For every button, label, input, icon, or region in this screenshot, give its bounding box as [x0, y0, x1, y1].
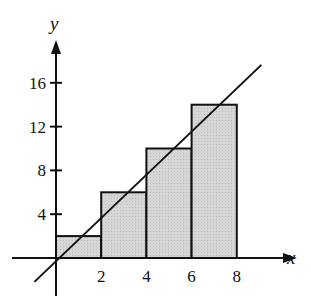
- x-tick-label: 8: [233, 267, 242, 286]
- bar-3: [192, 105, 237, 258]
- bar-1: [101, 192, 146, 258]
- x-axis-label: x: [286, 247, 296, 268]
- y-tick-label: 12: [29, 118, 46, 137]
- x-tick-label: 2: [97, 267, 106, 286]
- riemann-sum-chart: x y 2468481216: [0, 0, 311, 305]
- bar-2: [146, 149, 191, 259]
- x-tick-label: 4: [142, 267, 151, 286]
- y-tick-label: 4: [38, 205, 47, 224]
- x-tick-label: 6: [187, 267, 196, 286]
- y-tick-label: 16: [29, 74, 46, 93]
- y-axis-label: y: [48, 13, 59, 34]
- y-axis-arrow-icon: [51, 40, 61, 54]
- y-tick-label: 8: [38, 161, 47, 180]
